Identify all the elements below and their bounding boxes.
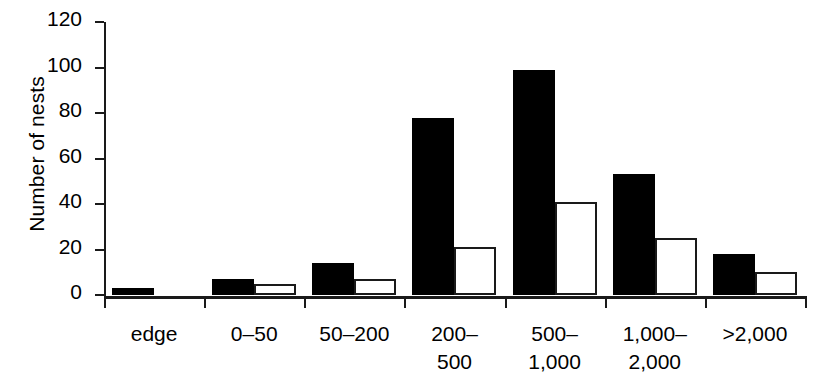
- bar-black: [513, 70, 555, 295]
- y-tick-label-100: 100: [22, 53, 82, 77]
- y-tick-label-80: 80: [22, 98, 82, 122]
- y-tick-100: 100: [95, 67, 104, 69]
- y-tick-label-120: 120: [22, 7, 82, 31]
- nest-distance-histogram: Number of nests 020406080100120 edge0–50…: [0, 0, 825, 388]
- x-tick-6: [705, 298, 707, 308]
- bar-black: [212, 279, 254, 295]
- x-tick-label: 50–200: [304, 320, 404, 348]
- x-tick-3: [404, 298, 406, 308]
- x-tick-0: [104, 298, 106, 308]
- x-tick-label: 1,000– 2,000: [605, 320, 705, 376]
- bar-black: [613, 174, 655, 295]
- x-tick-7: [805, 298, 807, 308]
- bar-white: [454, 247, 496, 295]
- bar-white: [655, 238, 697, 295]
- y-tick-0: 0: [95, 294, 104, 296]
- x-tick-5: [605, 298, 607, 308]
- bar-group: [204, 22, 304, 297]
- bar-group: [104, 22, 204, 297]
- y-tick-40: 40: [95, 203, 104, 205]
- x-tick-label: edge: [104, 320, 204, 348]
- bar-white: [354, 279, 396, 295]
- x-tick-4: [505, 298, 507, 308]
- x-tick-label: 200– 500: [404, 320, 504, 376]
- y-tick-60: 60: [95, 158, 104, 160]
- y-tick-120: 120: [95, 21, 104, 23]
- bar-white: [555, 202, 597, 295]
- y-tick-20: 20: [95, 249, 104, 251]
- y-tick-label-20: 20: [22, 235, 82, 259]
- x-tick-1: [204, 298, 206, 308]
- bar-white: [755, 272, 797, 295]
- y-tick-label-60: 60: [22, 144, 82, 168]
- x-tick-label: 0–50: [204, 320, 304, 348]
- y-tick-80: 80: [95, 112, 104, 114]
- bar-group: [304, 22, 404, 297]
- bar-black: [312, 263, 354, 295]
- bar-black: [713, 254, 755, 295]
- bar-group: [404, 22, 504, 297]
- y-tick-label-0: 0: [22, 280, 82, 304]
- x-tick-label: >2,000: [705, 320, 805, 348]
- x-tick-2: [304, 298, 306, 308]
- plot-area: 020406080100120 edge0–5050–200200– 50050…: [104, 22, 805, 297]
- bar-white: [254, 284, 296, 295]
- y-tick-label-40: 40: [22, 189, 82, 213]
- bar-group: [505, 22, 605, 297]
- bar-black: [412, 118, 454, 295]
- bar-black: [112, 288, 154, 295]
- bar-group: [605, 22, 705, 297]
- x-tick-label: 500– 1,000: [505, 320, 605, 376]
- bar-group: [705, 22, 805, 297]
